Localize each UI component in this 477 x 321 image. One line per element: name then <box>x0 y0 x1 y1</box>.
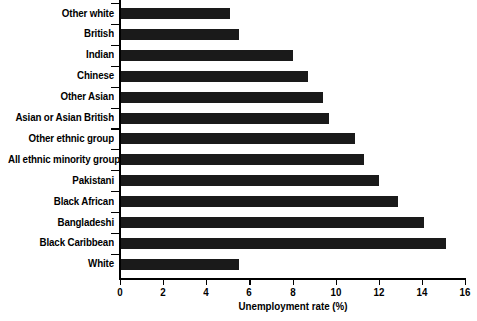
bar <box>120 196 398 207</box>
x-axis-tick-label: 8 <box>274 286 311 298</box>
y-axis-tick <box>111 170 119 171</box>
bar <box>120 50 293 61</box>
bar <box>120 8 230 19</box>
x-axis-tick <box>163 280 164 285</box>
y-axis-tick-label: Black African <box>8 196 114 207</box>
y-axis-tick-label: Indian <box>8 49 114 60</box>
x-axis-title: Unemployment rate (%) <box>132 300 454 312</box>
y-axis-tick-label: White <box>8 258 114 269</box>
bar <box>120 217 424 228</box>
x-axis-tick <box>293 280 294 285</box>
y-axis-tick <box>111 128 119 129</box>
y-axis-tick-label: British <box>8 28 114 39</box>
unemployment-rate-bar-chart: Other whiteBritishIndianChineseOther Asi… <box>0 0 477 321</box>
x-axis-tick <box>422 280 423 285</box>
y-axis-tick <box>111 149 119 150</box>
y-axis-tick-label: Other white <box>8 8 114 19</box>
y-axis-tick <box>111 24 119 25</box>
x-axis-tick-label: 2 <box>145 286 182 298</box>
y-axis-tick-label: Bangladeshi <box>8 217 114 228</box>
y-axis-tick-label: Black Caribbean <box>8 237 114 248</box>
y-axis-tick-label: Other ethnic group <box>8 133 114 144</box>
x-axis-tick-label: 10 <box>317 286 354 298</box>
x-axis-tick <box>379 280 380 285</box>
y-axis-tick-label: All ethnic minority groups <box>8 154 114 165</box>
x-axis-tick-label: 0 <box>101 286 138 298</box>
y-axis-tick-label: Asian or Asian British <box>8 112 114 123</box>
y-axis-tick <box>111 254 119 255</box>
y-axis-tick <box>111 3 119 4</box>
y-axis-line <box>119 0 121 279</box>
bar <box>120 29 239 40</box>
y-axis-tick-label: Other Asian <box>8 91 114 102</box>
y-axis-tick <box>111 191 119 192</box>
bar <box>120 175 379 186</box>
y-axis-tick-label: Pakistani <box>8 175 114 186</box>
bar <box>120 71 308 82</box>
bar <box>120 259 239 270</box>
bar <box>120 113 329 124</box>
x-axis-tick <box>336 280 337 285</box>
y-axis-tick <box>111 108 119 109</box>
y-axis-tick <box>111 87 119 88</box>
bar <box>120 238 446 249</box>
y-axis-tick <box>111 45 119 46</box>
y-axis-category-labels: Other whiteBritishIndianChineseOther Asi… <box>0 0 114 278</box>
bar <box>120 154 364 165</box>
x-axis-tick-label: 16 <box>446 286 477 298</box>
x-axis-tick <box>465 280 466 285</box>
x-axis-tick <box>206 280 207 285</box>
x-axis-tick <box>120 280 121 285</box>
bar <box>120 92 323 103</box>
plot-area <box>120 0 465 278</box>
y-axis-tick <box>111 212 119 213</box>
x-axis-tick-label: 4 <box>188 286 225 298</box>
x-axis-tick-label: 12 <box>360 286 397 298</box>
x-axis-tick-label: 14 <box>403 286 440 298</box>
y-axis-tick <box>111 233 119 234</box>
y-axis-tick-label: Chinese <box>8 70 114 81</box>
x-axis-tick-label: 6 <box>231 286 268 298</box>
y-axis-tick <box>111 66 119 67</box>
bar <box>120 133 355 144</box>
x-axis-tick <box>249 280 250 285</box>
